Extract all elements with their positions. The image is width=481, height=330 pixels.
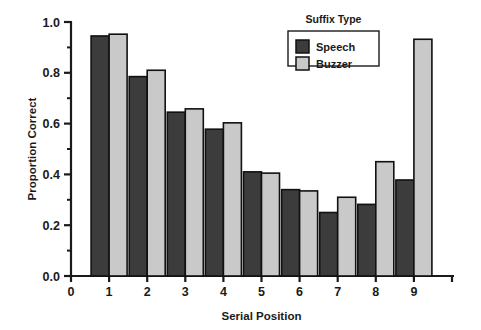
y-axis-tick-label: 1.0 bbox=[43, 16, 60, 30]
x-axis-tick-label: 0 bbox=[68, 285, 75, 299]
x-axis-tick-label: 3 bbox=[182, 285, 189, 299]
x-axis-tick-label: 7 bbox=[334, 285, 341, 299]
bar-speech-pos-8 bbox=[358, 204, 376, 276]
bar-buzzer-pos-4 bbox=[223, 123, 241, 276]
x-axis-tick-label: 5 bbox=[258, 285, 265, 299]
legend-swatch-buzzer bbox=[296, 57, 309, 70]
x-axis-title: Serial Position bbox=[222, 310, 302, 322]
bar-speech-pos-1 bbox=[91, 36, 109, 276]
legend-title: Suffix Type bbox=[306, 13, 362, 25]
bar-buzzer-pos-2 bbox=[147, 70, 165, 276]
bar-speech-pos-4 bbox=[205, 129, 223, 276]
x-axis-tick-label: 8 bbox=[372, 285, 379, 299]
bar-chart: 0.00.20.40.60.81.00123456789Serial Posit… bbox=[0, 0, 481, 330]
bar-speech-pos-5 bbox=[244, 172, 262, 276]
bar-buzzer-pos-7 bbox=[338, 197, 356, 276]
y-axis-tick-label: 0.6 bbox=[43, 117, 60, 131]
bar-speech-pos-2 bbox=[129, 77, 147, 276]
bar-buzzer-pos-8 bbox=[376, 162, 394, 276]
y-axis-tick-label: 0.4 bbox=[43, 168, 60, 182]
legend-swatch-speech bbox=[296, 40, 309, 53]
legend-label-speech: Speech bbox=[316, 41, 355, 53]
chart-figure: 0.00.20.40.60.81.00123456789Serial Posit… bbox=[0, 0, 481, 330]
x-axis-tick-label: 1 bbox=[106, 285, 113, 299]
legend-label-buzzer: Buzzer bbox=[316, 58, 353, 70]
bar-speech-pos-6 bbox=[282, 190, 300, 276]
x-axis-tick-label: 6 bbox=[296, 285, 303, 299]
bar-buzzer-pos-5 bbox=[262, 173, 280, 276]
bar-speech-pos-9 bbox=[396, 180, 414, 276]
y-axis-title: Proportion Correct bbox=[26, 97, 38, 200]
x-axis-tick-label: 2 bbox=[144, 285, 151, 299]
bar-speech-pos-7 bbox=[320, 213, 338, 277]
x-axis-tick-label: 9 bbox=[410, 285, 417, 299]
bar-speech-pos-3 bbox=[167, 112, 185, 276]
bar-buzzer-pos-9 bbox=[414, 39, 432, 276]
bar-buzzer-pos-3 bbox=[185, 109, 203, 276]
y-axis-tick-label: 0.8 bbox=[43, 66, 60, 80]
bar-buzzer-pos-6 bbox=[300, 191, 318, 276]
x-axis-tick-label: 4 bbox=[220, 285, 227, 299]
y-axis-tick-label: 0.2 bbox=[43, 219, 60, 233]
bar-buzzer-pos-1 bbox=[109, 34, 127, 276]
y-axis-tick-label: 0.0 bbox=[43, 270, 60, 284]
